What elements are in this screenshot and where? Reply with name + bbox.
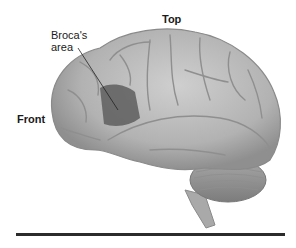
bottom-rule	[16, 233, 285, 236]
top-label: Top	[162, 13, 181, 25]
broca-label-line2: area	[51, 41, 73, 53]
cerebrum	[52, 29, 281, 170]
front-label: Front	[17, 113, 45, 125]
broca-label-line1: Broca's	[51, 29, 87, 41]
